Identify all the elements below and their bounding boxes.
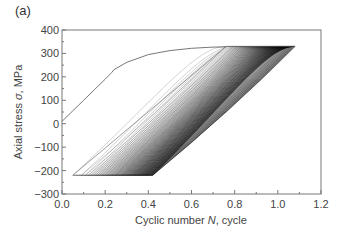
plot-area	[62, 46, 295, 175]
y-tick-label: 300	[41, 47, 59, 59]
y-tick-label: −300	[34, 188, 59, 200]
x-tick-label: 0.8	[227, 198, 242, 210]
y-tick-label: 100	[41, 94, 59, 106]
y-tick-label: 400	[41, 24, 59, 36]
x-tick-labels: 0.00.20.40.60.81.01.2	[54, 198, 328, 210]
y-tick-label: 200	[41, 71, 59, 83]
y-axis-title: Axial stress σ, MPa	[12, 64, 24, 160]
y-tick-label: −100	[34, 141, 59, 153]
x-tick-label: 0.4	[141, 198, 156, 210]
y-tick-label: −200	[34, 165, 59, 177]
stress-strain-chart: 0.00.20.40.60.81.01.2 4003002001000−100−…	[0, 0, 341, 238]
x-axis-title: Cyclic number N, cycle	[135, 214, 247, 226]
x-tick-label: 1.2	[313, 198, 328, 210]
x-tick-label: 1.0	[270, 198, 285, 210]
y-tick-labels: 4003002001000−100−200−300	[34, 24, 59, 200]
y-tick-label: 0	[53, 118, 59, 130]
x-tick-label: 0.2	[98, 198, 113, 210]
x-tick-label: 0.6	[184, 198, 199, 210]
